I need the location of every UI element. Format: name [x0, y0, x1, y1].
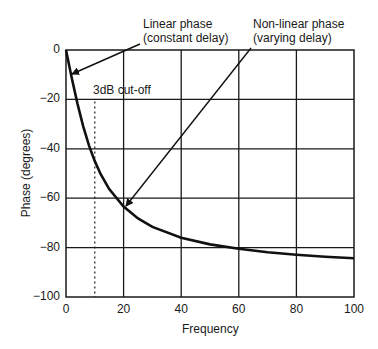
x-tick-label: 60	[224, 302, 254, 316]
nonlinear-phase-label: Non-linear phase (varying delay)	[253, 17, 344, 45]
cutoff-label: 3dB cut-off	[93, 83, 151, 97]
y-tick-label: 0	[30, 42, 60, 56]
nonlinear-phase-line2: (varying delay)	[253, 31, 344, 45]
nonlinear-phase-line1: Non-linear phase	[253, 17, 344, 31]
x-tick-label: 20	[109, 302, 139, 316]
y-tick-label: −80	[30, 240, 60, 254]
x-tick-label: 80	[281, 302, 311, 316]
linear-phase-line2: (constant delay)	[143, 31, 228, 45]
x-tick-label: 0	[51, 302, 81, 316]
linear-phase-arrow	[72, 44, 140, 74]
x-tick-label: 100	[339, 302, 369, 316]
x-axis-label: Frequency	[182, 322, 239, 336]
linear-phase-label: Linear phase (constant delay)	[143, 17, 228, 45]
x-tick-label: 40	[166, 302, 196, 316]
nonlinear-phase-arrow	[126, 48, 251, 206]
y-axis-label: Phase (degrees)	[19, 123, 33, 223]
y-tick-label: −40	[30, 141, 60, 155]
linear-phase-line1: Linear phase	[143, 17, 228, 31]
y-tick-label: −100	[30, 289, 60, 303]
phase-curve	[66, 50, 354, 258]
y-tick-label: −60	[30, 190, 60, 204]
y-tick-label: −20	[30, 91, 60, 105]
